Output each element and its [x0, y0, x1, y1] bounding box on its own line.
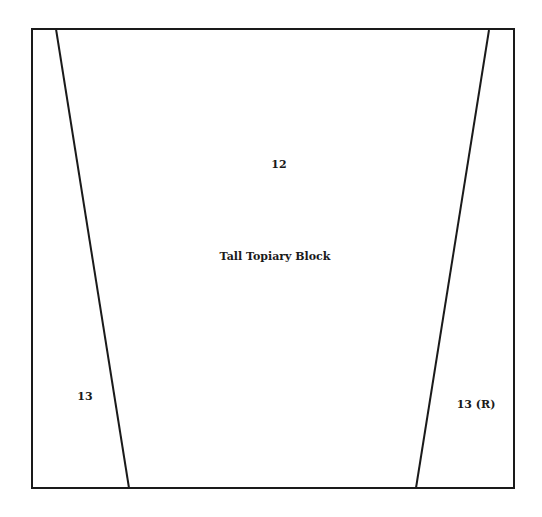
right-seam-line — [416, 30, 489, 488]
piece-13r-label: 13 (R) — [457, 398, 496, 411]
left-seam-line — [56, 29, 129, 488]
piece-13-label: 13 — [77, 390, 92, 403]
piece-12-label: 12 — [271, 158, 286, 171]
block-title: Tall Topiary Block — [220, 250, 331, 263]
